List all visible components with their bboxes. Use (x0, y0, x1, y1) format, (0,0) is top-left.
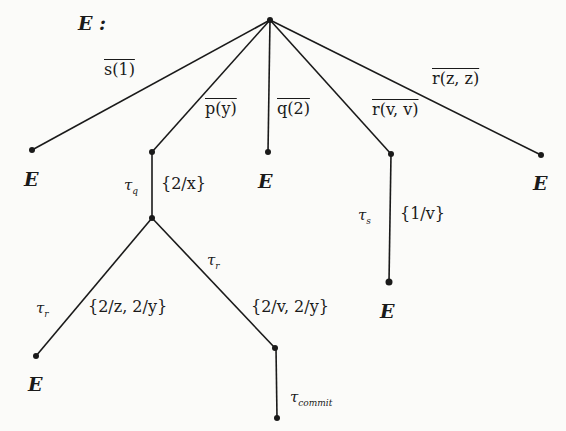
action-label-r-vv: r(v, v) (372, 102, 418, 118)
r-zz-label: r(z, z) (432, 69, 479, 88)
edge-r-vv (270, 20, 391, 154)
edge-p (152, 20, 270, 152)
edge-tau-r-right (152, 218, 275, 348)
node-tau-r-left-leaf (33, 353, 39, 359)
leaf-e-tau-r: E (28, 375, 42, 394)
action-label-s: s(1) (104, 62, 135, 78)
node-r-vv (388, 151, 394, 157)
node-root (267, 17, 273, 23)
q-bar-label: q(2) (277, 99, 310, 118)
node-p (149, 149, 155, 155)
edge-r-zz (270, 20, 541, 155)
s-bar-label: s(1) (104, 60, 135, 79)
edge-q (268, 20, 270, 152)
subst-2v-2y: {2/v, 2/y} (251, 299, 329, 315)
tree-edges (0, 0, 566, 431)
subst-2z-2y: {2/z, 2/y} (88, 299, 167, 315)
action-label-r-zz: r(z, z) (432, 71, 479, 87)
r-vv-label: r(v, v) (372, 100, 418, 119)
leaf-e-r-zz: E (533, 174, 547, 193)
tau-s-label: τs (358, 208, 371, 226)
node-tau-q (149, 215, 155, 221)
leaf-e-q: E (258, 172, 272, 191)
node-s-leaf (29, 147, 35, 153)
tau-commit-label: τcommit (290, 390, 332, 408)
edge-tau-commit (276, 348, 277, 418)
action-label-q: q(2) (277, 101, 310, 117)
tau-r-left-label: τr (36, 301, 49, 319)
edge-s (32, 20, 270, 150)
edge-tau-r-left (36, 218, 152, 356)
p-bar-label: p(y) (205, 99, 237, 118)
tau-q-label: τq (124, 178, 138, 196)
subst-1-v: {1/v} (400, 206, 445, 222)
node-r-zz-leaf (538, 152, 544, 158)
tau-r-right-label: τr (207, 253, 220, 271)
node-commit-leaf (274, 415, 280, 421)
tree-title: E : (78, 14, 106, 33)
node-q-leaf (265, 149, 271, 155)
node-tau-s-leaf (386, 279, 393, 286)
action-label-p: p(y) (205, 101, 237, 117)
leaf-e-s: E (24, 170, 38, 189)
leaf-e-tau-s: E (380, 302, 394, 321)
subst-2-x: {2/x} (161, 176, 206, 192)
node-tau-r-right (272, 345, 278, 351)
edge-tau-s (389, 154, 391, 282)
